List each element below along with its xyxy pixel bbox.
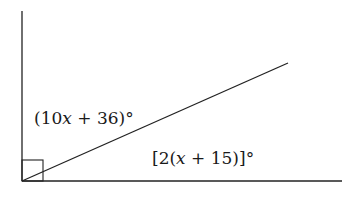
upper-angle-suffix: + 36)°	[72, 108, 134, 128]
lower-angle-prefix: [2(	[152, 148, 176, 168]
right-angle-marker	[22, 160, 43, 181]
upper-angle-label: (10x + 36)°	[34, 110, 134, 127]
lower-angle-variable: x	[176, 148, 186, 168]
lower-angle-suffix: + 15)]°	[186, 148, 254, 168]
lower-angle-label: [2(x + 15)]°	[152, 150, 254, 167]
upper-angle-variable: x	[62, 108, 72, 128]
upper-angle-prefix: (10	[34, 108, 62, 128]
